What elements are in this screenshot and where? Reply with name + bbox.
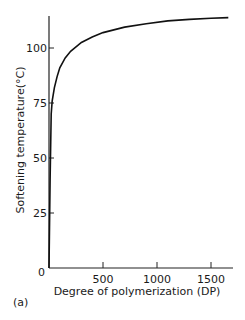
x-ticks: 50010001500	[93, 262, 226, 286]
y-tick-label: 25	[33, 207, 47, 220]
x-axis-label: Degree of polymerization (DP)	[54, 285, 221, 298]
chart-figure: 0255075100 50010001500 Softening tempera…	[0, 0, 245, 320]
y-tick-label: 50	[33, 152, 47, 165]
data-curve	[49, 18, 228, 268]
y-tick-label: 0	[38, 266, 45, 279]
y-tick-label: 75	[33, 97, 47, 110]
panel-label: (a)	[13, 296, 28, 309]
chart-svg: 0255075100 50010001500 Softening tempera…	[0, 0, 245, 320]
y-axis-label: Softening temperature(°C)	[14, 67, 27, 214]
y-tick-label: 100	[26, 42, 47, 55]
